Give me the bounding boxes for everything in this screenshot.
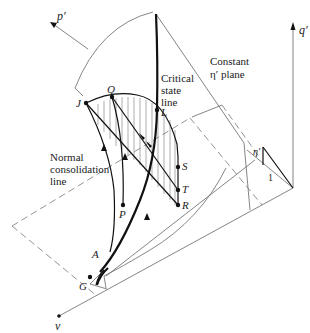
label-G: G bbox=[79, 280, 87, 292]
slope-eta-label: η′ bbox=[253, 146, 261, 157]
point-P bbox=[121, 203, 125, 207]
arrow-icon bbox=[101, 144, 107, 151]
point-J bbox=[84, 101, 88, 105]
ncl-label-1: Normal bbox=[50, 151, 84, 163]
point-G bbox=[88, 275, 92, 279]
label-L: L bbox=[160, 106, 167, 118]
labels: p′ q′ v Constant η′ plane Critical state… bbox=[50, 9, 308, 333]
label-A: A bbox=[91, 248, 99, 260]
label-R: R bbox=[181, 199, 189, 211]
label-J: J bbox=[76, 97, 82, 109]
label-P: P bbox=[118, 208, 126, 220]
q-axis-label: q′ bbox=[299, 23, 308, 37]
q-axis-arrow-icon bbox=[291, 22, 296, 30]
constant-plane-label-1: Constant bbox=[210, 55, 249, 67]
p-axis-arrow-icon bbox=[50, 22, 57, 28]
ncl-label-3: line bbox=[50, 175, 67, 187]
p-axis bbox=[53, 24, 88, 49]
point-T bbox=[176, 188, 180, 192]
point-S bbox=[176, 165, 180, 169]
v-axis-end bbox=[57, 314, 61, 318]
v-axis-label: v bbox=[55, 319, 61, 333]
state-boundary-diagram: p′ q′ v Constant η′ plane Critical state… bbox=[0, 0, 310, 333]
critical-state-label-1: Critical bbox=[161, 72, 194, 84]
label-S: S bbox=[182, 160, 188, 172]
label-Q: Q bbox=[107, 83, 115, 95]
constant-eta-plane bbox=[12, 105, 262, 296]
critical-state-label-2: state bbox=[161, 84, 181, 96]
label-T: T bbox=[182, 183, 189, 195]
slope-one-label: 1 bbox=[268, 172, 273, 183]
arrow-icon bbox=[144, 213, 150, 220]
constant-plane-label-2: η′ plane bbox=[210, 68, 245, 80]
point-Q bbox=[110, 95, 114, 99]
point-L bbox=[155, 108, 159, 112]
ncl-label-2: consolidation bbox=[50, 163, 110, 175]
point-R bbox=[176, 203, 180, 207]
p-axis-label: p′ bbox=[56, 9, 66, 23]
